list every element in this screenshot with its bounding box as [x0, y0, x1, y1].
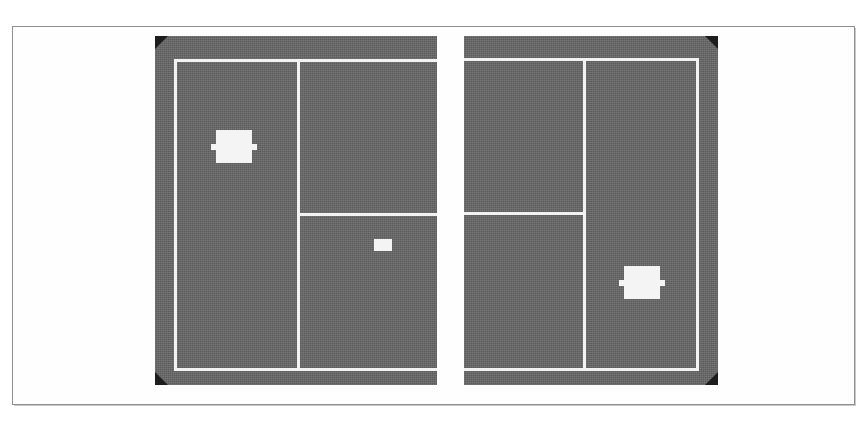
left-outer-baseline-top	[174, 59, 437, 62]
left-primary-object-marker	[216, 130, 252, 163]
corner-mark-bottom-right	[705, 372, 718, 385]
corner-mark-bottom-left	[155, 372, 168, 385]
right-outer-baseline-top	[464, 58, 699, 61]
figure-root	[0, 0, 867, 424]
corner-mark-top-left	[155, 36, 168, 49]
right-outer-baseline-bottom	[464, 368, 699, 371]
left-outer-baseline-bottom	[174, 368, 437, 371]
right-service-line	[464, 212, 586, 215]
left-service-line	[297, 213, 437, 216]
right-primary-object-marker	[624, 266, 660, 299]
corner-mark-top-right	[705, 36, 718, 49]
left-court-panel	[155, 36, 437, 385]
left-secondary-object-marker	[374, 239, 392, 251]
right-outer-sideline-right	[696, 58, 699, 371]
right-court-panel	[464, 36, 718, 385]
left-outer-sideline-left	[174, 59, 177, 371]
